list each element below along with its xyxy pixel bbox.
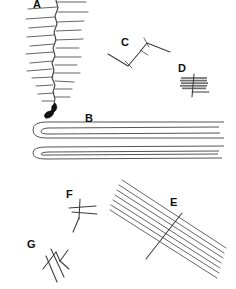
figure-root: A B C D E F G (0, 0, 236, 289)
panel-label-e: E (170, 196, 177, 208)
panel-label-g: G (27, 238, 36, 250)
panel-label-a: A (33, 0, 41, 10)
panel-label-f: F (66, 188, 73, 200)
panel-label-d: D (178, 62, 186, 74)
panel-label-b: B (85, 112, 93, 124)
figure-canvas: A B C D E F G (0, 0, 236, 289)
panel-label-c: C (121, 36, 129, 48)
